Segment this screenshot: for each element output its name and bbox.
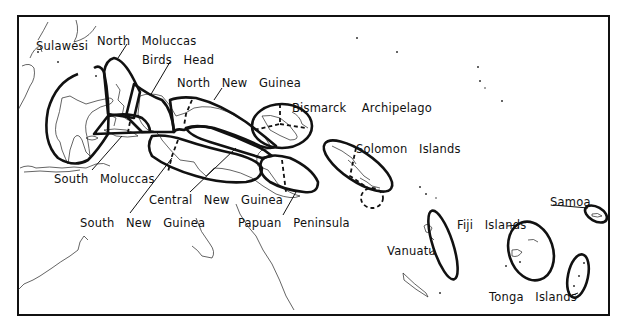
label-south-new-guinea: South New Guinea: [80, 218, 205, 230]
birds-head-outline: [126, 84, 174, 132]
label-south-moluccas: South Moluccas: [54, 174, 155, 186]
label-solomon-islands: Solomon Islands: [356, 144, 461, 156]
label-sulawesi: Sulawesi: [36, 41, 88, 53]
label-tonga-islands: Tonga Islands: [489, 292, 577, 304]
label-north-new-guinea: North New Guinea: [177, 78, 301, 90]
biogeographic-region-map: [0, 0, 626, 331]
label-north-moluccas: North Moluccas: [97, 36, 196, 48]
papuan-peninsula-outline: [260, 155, 318, 192]
label-vanuatu: Vanuatu: [387, 246, 436, 258]
island-specks: [37, 37, 585, 294]
label-bismarck-archipelago: Bismarck Archipelago: [292, 103, 432, 115]
label-samoa: Samoa: [550, 197, 591, 209]
label-papuan-peninsula: Papuan Peninsula: [238, 218, 350, 230]
map-frame: [18, 16, 609, 315]
label-central-new-guinea: Central New Guinea: [149, 195, 283, 207]
sulawesi-outline: [46, 67, 108, 164]
label-birds-head: Birds Head: [142, 55, 214, 67]
label-fiji-islands: Fiji Islands: [457, 220, 526, 232]
